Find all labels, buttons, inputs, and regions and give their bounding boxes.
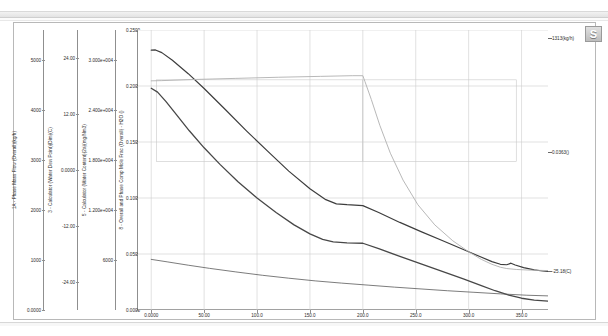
y-axis-tick-mark	[114, 110, 117, 111]
y-axis-tick-mark	[76, 226, 79, 227]
x-axis-tick-mark	[204, 310, 205, 313]
y-axis-tick-mark	[114, 260, 117, 261]
y-axis-3-tick: 6000	[103, 258, 113, 263]
y-axis-2-tick: 24.00	[64, 56, 76, 61]
x-axis-tick: 100.0	[251, 313, 263, 318]
x-axis-tick: 150.0	[304, 313, 316, 318]
s-logo-icon[interactable]: S	[585, 26, 602, 42]
x-axis-tick-mark	[416, 310, 417, 313]
x-axis-tick: 250.0	[410, 313, 422, 318]
y-axis-tick-mark	[42, 110, 45, 111]
plot-area	[138, 30, 548, 310]
y-axis-tick-mark	[42, 160, 45, 161]
x-axis-tick-mark	[310, 310, 311, 313]
y-axis-2-tick: 12.00	[64, 112, 76, 117]
window-bottom-strip-2	[0, 327, 608, 336]
y-axis-1-title: 1A - Phase Mass Flow (Overall)(kg/h)	[12, 131, 17, 209]
y-axis-tick-mark	[114, 160, 117, 161]
y-axis-2-tick: -12.00	[62, 224, 75, 229]
y-axis-tick-mark	[42, 260, 45, 261]
series-h2o-mole-frac	[151, 259, 548, 296]
x-axis-tick: 350.0	[516, 313, 528, 318]
y-axis-tick-mark	[114, 60, 117, 61]
y-axis-tick-mark	[136, 310, 139, 311]
y-axis-2-title: 3 - Calculator (Water Dew Point)(Dim)(C)	[48, 127, 53, 213]
y-axis-1-tick: 2000	[31, 208, 41, 213]
y-axis-tick-mark	[76, 170, 79, 171]
y-axis-tick-mark	[114, 210, 117, 211]
series-water-dew-point	[151, 76, 548, 271]
y-axis-3-tick: 1.800e+004	[89, 158, 113, 163]
overlay-box-2	[363, 80, 516, 162]
window-bottom-strip	[0, 322, 608, 326]
annot-mass-flow: 1313(kg/h)	[552, 35, 574, 40]
x-axis-tick: 200.0	[357, 313, 369, 318]
x-axis-tick-mark	[469, 310, 470, 313]
x-axis-tick: 50.00	[198, 313, 210, 318]
y-axis-1-tick: 1000	[31, 258, 41, 263]
y-axis-tick-mark	[76, 58, 79, 59]
y-axis-1-tick: 0.0000	[27, 308, 41, 313]
window-top-strip-2	[0, 18, 608, 21]
annotation-leader-line	[548, 271, 552, 272]
y-axis-1: 1A - Phase Mass Flow (Overall)(kg/h) 500…	[16, 30, 44, 310]
y-axis-4: 8 - Overall and Phase Comp Mole Frac (Ov…	[124, 30, 138, 310]
y-axis-3-tick: 3.000e+004	[89, 58, 113, 63]
x-axis-tick-mark	[151, 310, 152, 313]
x-axis-tick-mark	[257, 310, 258, 313]
y-axis-1-tick: 3000	[31, 158, 41, 163]
y-axis-2: 3 - Calculator (Water Dew Point)(Dim)(C)…	[52, 30, 78, 310]
overlay-box-1	[157, 80, 363, 162]
y-axis-tick-mark	[76, 282, 79, 283]
annotation-leader-line	[548, 38, 552, 39]
y-axis-3-title: 5 - Calculator (Water Content)(2a)(mg/Nm…	[82, 124, 87, 216]
x-axis-tick: 0.0000	[144, 313, 158, 318]
y-axis-4-title: 8 - Overall and Phase Comp Mole Frac (Ov…	[119, 110, 124, 229]
chart-window: S 1A - Phase Mass Flow (Overall)(kg/h) 5…	[0, 0, 608, 336]
series-water-content	[151, 88, 548, 301]
annot-water-temp: -25.18(C)	[552, 268, 571, 273]
y-axis-3: 5 - Calculator (Water Content)(2a)(mg/Nm…	[86, 30, 116, 310]
y-axis-1-tick: 4000	[31, 108, 41, 113]
annot-dew-point: 0.0363()	[552, 150, 569, 155]
series-phase-mass-flow	[151, 50, 548, 271]
x-axis-tick: 300.0	[463, 313, 475, 318]
y-axis-2-tick: -24.00	[62, 280, 75, 285]
plot-canvas	[138, 30, 548, 310]
y-axis-tick-mark	[76, 114, 79, 115]
annotation-leader-line	[548, 152, 552, 153]
y-axis-tick-mark	[42, 60, 45, 61]
y-axis-2-tick: 0.0000	[61, 168, 75, 173]
y-axis-3-tick: 2.400e+004	[89, 108, 113, 113]
y-axis-3-tick: 1.200e+004	[89, 208, 113, 213]
y-axis-tick-mark	[42, 310, 45, 311]
x-axis-tick-mark	[522, 310, 523, 313]
x-axis-tick-mark	[363, 310, 364, 313]
window-top-strip	[0, 11, 608, 18]
y-axis-1-tick: 5000	[31, 58, 41, 63]
y-axis-tick-mark	[42, 210, 45, 211]
